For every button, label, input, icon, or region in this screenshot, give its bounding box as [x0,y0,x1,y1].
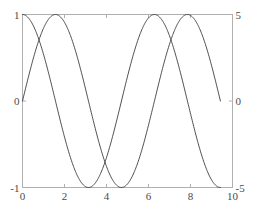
plot-canvas [0,0,259,213]
y-right-tick-label: 0 [236,96,242,107]
data-series-group [23,15,221,188]
x-tick-label: 6 [146,191,152,202]
x-tick-label: 0 [20,191,26,202]
chart-figure: -101-5050246810 [0,0,259,213]
y-right-tick-label: 5 [236,9,242,20]
y-left-tick-label: -1 [10,182,19,193]
x-tick-label: 10 [227,191,238,202]
x-tick-label: 8 [188,191,194,202]
series-line-2 [23,15,221,188]
y-left-tick-label: 1 [14,9,20,20]
tick-marks [23,15,233,188]
x-tick-label: 4 [104,191,110,202]
axes-frame [23,15,233,188]
y-left-tick-label: 0 [14,96,20,107]
plot-frame [23,15,233,188]
x-tick-label: 2 [62,191,68,202]
